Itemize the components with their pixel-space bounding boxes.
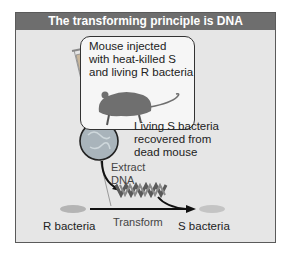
recovered-text: Living S bacteria recovered from dead mo…: [134, 120, 219, 159]
recovered-line-3: dead mouse: [134, 146, 219, 159]
s-bacteria-label: S bacteria: [178, 220, 230, 233]
transform-label: Transform: [113, 216, 163, 229]
s-bacteria-icon: [199, 205, 225, 213]
recovered-line-1: Living S bacteria: [134, 120, 219, 133]
recovered-line-2: recovered from: [134, 133, 219, 146]
r-bacteria-label: R bacteria: [43, 220, 95, 233]
mouse-injection-box: Mouse injected with heat-killed S and li…: [80, 36, 195, 130]
extract-dna-text: Extract DNA: [111, 161, 145, 187]
transform-arrowhead-icon: [186, 205, 196, 213]
extract-line-2: DNA: [111, 174, 145, 187]
extract-line-1: Extract: [111, 161, 145, 174]
diagram-panel: The transforming principle is DNA: [15, 12, 276, 243]
mouse-icon: [81, 37, 196, 131]
r-bacteria-icon: [60, 205, 86, 213]
